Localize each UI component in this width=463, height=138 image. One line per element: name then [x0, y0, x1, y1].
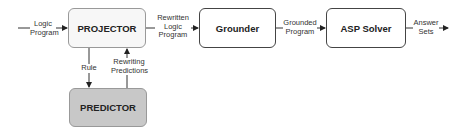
predictor-label: PREDICTOR — [80, 102, 136, 113]
label-line: Program — [30, 29, 56, 38]
asp-solver-label: ASP Solver — [340, 23, 391, 34]
label-line: Sets — [413, 28, 439, 37]
asp-solver-node: ASP Solver — [326, 8, 406, 48]
grounded-program-edge-label: Grounded Program — [283, 19, 317, 36]
answer-sets-edge-label: Answer Sets — [413, 19, 439, 36]
rewriting-predictions-edge-label: Rewriting Predictions — [111, 58, 147, 75]
grounder-node: Grounder — [199, 8, 276, 48]
grounder-label: Grounder — [216, 23, 259, 34]
rule-edge-label: Rule — [81, 64, 97, 73]
rewritten-program-edge-label: Rewritten Logic Program — [155, 14, 191, 40]
projector-node: PROJECTOR — [68, 8, 146, 48]
label-line: Predictions — [111, 67, 147, 76]
label-line: Program — [283, 28, 317, 37]
projector-label: PROJECTOR — [78, 23, 137, 34]
predictor-node: PREDICTOR — [69, 88, 147, 127]
label-line: Rule — [81, 64, 97, 73]
input-edge-label: Logic Program — [30, 20, 56, 37]
label-line: Program — [155, 31, 191, 40]
